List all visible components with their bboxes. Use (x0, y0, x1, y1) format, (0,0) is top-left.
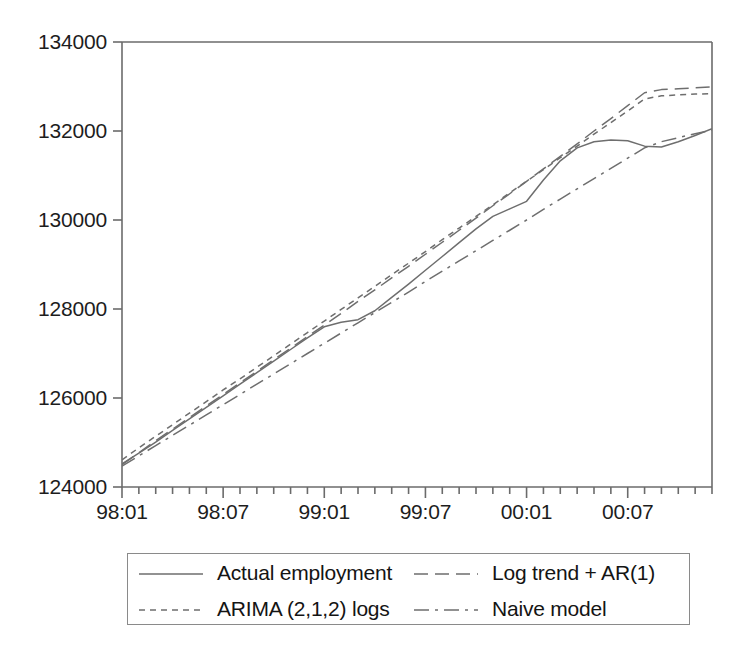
legend-grid: Actual employmentLog trend + AR(1)ARIMA … (128, 554, 689, 624)
x-tick-label: 00:01 (477, 501, 577, 522)
y-tick-label: 130000 (38, 209, 107, 230)
x-tick-label: 99:07 (375, 501, 475, 522)
data-series (122, 87, 712, 466)
legend-line-sample (138, 566, 204, 578)
legend-label: Log trend + AR(1) (492, 562, 655, 583)
x-tick-label: 98:01 (72, 501, 172, 522)
legend-line-sample (413, 566, 479, 578)
legend-line-sample (413, 602, 479, 614)
legend-entry: Actual employment (128, 554, 403, 590)
x-tick-label: 98:07 (173, 501, 273, 522)
y-tick-label: 124000 (38, 476, 107, 497)
legend-entry: Naive model (403, 590, 691, 626)
chart-plot-area (0, 0, 732, 646)
y-tick-label: 132000 (38, 120, 107, 141)
legend-label: Naive model (492, 598, 607, 619)
legend-line-sample (138, 602, 204, 614)
legend-entry: ARIMA (2,1,2) logs (128, 590, 403, 626)
series-line (122, 130, 712, 466)
x-tick-label: 00:07 (578, 501, 678, 522)
series-line (122, 87, 712, 465)
legend-label: ARIMA (2,1,2) logs (217, 598, 390, 619)
x-tick-label: 99:01 (274, 501, 374, 522)
employment-forecast-chart: 124000126000128000130000132000134000 98:… (0, 0, 732, 646)
series-line (122, 129, 712, 464)
chart-legend: Actual employmentLog trend + AR(1)ARIMA … (127, 553, 690, 625)
y-tick-label: 126000 (38, 387, 107, 408)
y-tick-label: 128000 (38, 298, 107, 319)
legend-label: Actual employment (217, 562, 392, 583)
y-tick-label: 134000 (38, 31, 107, 52)
legend-entry: Log trend + AR(1) (403, 554, 691, 590)
